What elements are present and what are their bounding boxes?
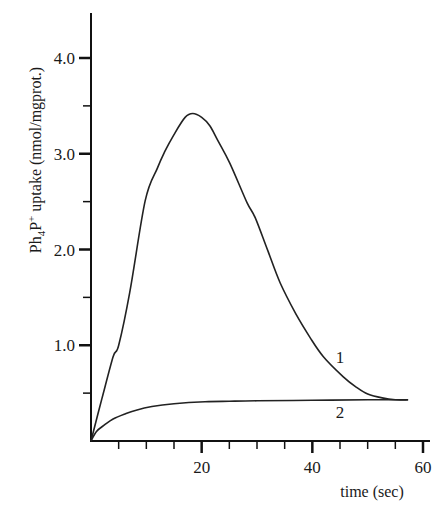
x-tick-label: 60 [415, 458, 432, 477]
y-title-mid: P [27, 222, 44, 231]
series-line-1 [91, 114, 408, 442]
ticks: 2040601.02.03.04.0 [54, 49, 432, 477]
x-tick-label: 20 [193, 458, 210, 477]
y-tick-label: 4.0 [54, 49, 75, 68]
y-tick-label: 1.0 [54, 336, 75, 355]
series-line-2 [91, 400, 408, 441]
chart: 2040601.02.03.04.0 12 time (sec) Ph4P+ u… [0, 0, 445, 517]
series-label-1: 1 [336, 348, 345, 367]
series-label-2: 2 [336, 403, 345, 422]
line-chart: 2040601.02.03.04.0 12 time (sec) Ph4P+ u… [0, 0, 445, 517]
y-title-rest: uptake (nmol/mgprot.) [27, 67, 45, 216]
x-tick-label: 40 [304, 458, 321, 477]
x-axis-title: time (sec) [340, 483, 404, 501]
y-title-base: Ph [27, 236, 44, 253]
y-axis-title: Ph4P+ uptake (nmol/mgprot.) [25, 67, 47, 253]
labels: 12 [336, 348, 345, 423]
y-tick-label: 2.0 [54, 241, 75, 260]
series-lines [91, 114, 408, 442]
y-tick-label: 3.0 [54, 145, 75, 164]
